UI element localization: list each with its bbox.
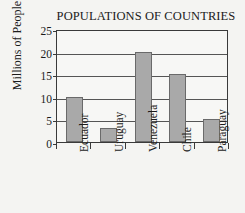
x-tick-mark <box>228 143 229 149</box>
y-tick-label: 5 <box>46 115 52 127</box>
bar-chart-figure: POPULATIONS OF COUNTRIES Millions of Peo… <box>0 0 245 213</box>
x-tick-mark <box>194 143 195 149</box>
y-axis-title: Millions of People <box>10 0 25 101</box>
x-tick-label-uruguay: Uruguay <box>113 112 125 152</box>
y-tick-label: 15 <box>41 70 53 82</box>
y-tick-label: 25 <box>41 25 53 37</box>
x-tick-label-paraguay: Paraguay <box>216 109 228 152</box>
x-tick-label-ecuador: Ecuador <box>78 114 90 152</box>
y-tick-label: 10 <box>41 93 53 105</box>
chart-title: POPULATIONS OF COUNTRIES <box>56 9 236 24</box>
x-tick-mark <box>159 143 160 149</box>
x-tick-label-venezuela: Venezuela <box>147 105 159 152</box>
y-tick-label: 0 <box>46 138 52 150</box>
x-tick-mark <box>56 143 57 149</box>
y-tick-label: 20 <box>41 48 53 60</box>
x-tick-mark <box>90 143 91 149</box>
x-tick-label-chile: Chile <box>181 127 193 152</box>
